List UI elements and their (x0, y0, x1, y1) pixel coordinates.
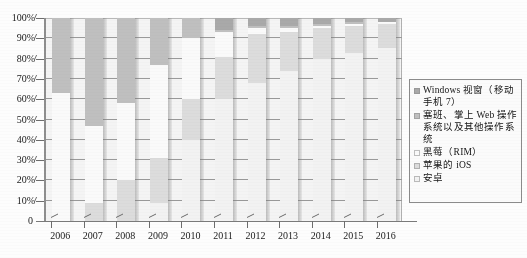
y-axis-tick-mark (36, 79, 44, 80)
bar-segment (117, 103, 135, 180)
bar-segment (378, 22, 396, 24)
stacked-bar (52, 18, 70, 221)
bar-segment (150, 18, 168, 65)
bar-segment (85, 18, 103, 126)
bar-segment (85, 126, 103, 203)
bar-group (52, 18, 70, 221)
bar-segment (215, 57, 233, 100)
bar-group (378, 18, 396, 221)
x-axis-tick-mark (377, 221, 378, 228)
bar-segment (313, 28, 331, 58)
bar-segment (215, 30, 233, 32)
bar-segment (280, 28, 298, 32)
bar-segment (248, 34, 266, 83)
plot-area (44, 18, 402, 221)
bar-side-face (233, 18, 237, 221)
stacked-bar (85, 18, 103, 221)
stacked-bar (345, 18, 363, 221)
x-axis-tick-label: 2015 (336, 230, 370, 241)
legend-swatch-icon (414, 176, 420, 182)
stacked-bar (182, 18, 200, 221)
y-axis-tick-mark (36, 38, 44, 39)
bar-group (150, 18, 168, 221)
legend-item[interactable]: Windows 视窗（移动手机 7） (413, 84, 518, 108)
x-axis-tick-label: 2008 (108, 230, 142, 241)
bar-segment (345, 26, 363, 52)
legend-item-label: 塞班、掌上 Web 操作系统以及其他操作系统 (423, 109, 518, 145)
bar-segment (345, 53, 363, 221)
x-axis-tick-mark (181, 221, 182, 228)
bar-segment (248, 83, 266, 221)
y-axis-tick-label: 70% (17, 74, 35, 84)
y-axis-tick-mark (36, 120, 44, 121)
x-axis-tick-label: 2009 (141, 230, 175, 241)
x-axis-tick-label: 2006 (43, 230, 77, 241)
bar-segment (378, 18, 396, 22)
bar-group (182, 18, 200, 221)
y-axis-tick-mark (36, 18, 44, 19)
y-axis-tick-label: 100% (12, 13, 35, 23)
legend-item[interactable]: 安卓 (413, 172, 518, 184)
chart-figure: 100%90%80%70%60%50%40%30%20%10% 0 200620… (0, 0, 527, 258)
bar-segment (117, 18, 135, 103)
stacked-bar (215, 18, 233, 221)
bar-side-face (266, 18, 270, 221)
x-axis-tick-mark (149, 221, 150, 228)
x-axis-tick-label: 2011 (206, 230, 240, 241)
y-axis-tick-label: 50% (17, 115, 35, 125)
bar-side-face (200, 18, 204, 221)
stacked-bar (280, 18, 298, 221)
x-axis-tick-label: 2010 (173, 230, 207, 241)
bar-segment (248, 28, 266, 34)
x-axis-tick-mark (84, 221, 85, 228)
x-axis-tick-label: 2012 (239, 230, 273, 241)
bar-segment (150, 65, 168, 158)
bar-segment (182, 140, 200, 221)
bar-segment (215, 99, 233, 221)
bar-segment (345, 22, 363, 24)
legend-item[interactable]: 苹果的 iOS (413, 159, 518, 171)
legend-swatch-icon (414, 150, 420, 156)
bar-segment (378, 24, 396, 48)
y-axis-tick-label: 10% (17, 196, 35, 206)
stacked-bar (248, 18, 266, 221)
bar-side-face (331, 18, 335, 221)
bar-group (117, 18, 135, 221)
bar-segment (313, 24, 331, 26)
x-axis-tick-label: 2016 (369, 230, 403, 241)
bar-side-face (396, 18, 400, 221)
y-axis-tick-mark (36, 180, 44, 181)
bar-segment (248, 26, 266, 28)
bar-group (248, 18, 266, 221)
legend-item-label: 黑莓（RIM） (423, 146, 482, 158)
x-axis: 2006200720082009201020112012201320142015… (44, 221, 416, 251)
legend-item-label: 苹果的 iOS (423, 159, 472, 171)
bar-side-face (363, 18, 367, 221)
y-axis-tick-label: 60% (17, 94, 35, 104)
bar-segment (280, 26, 298, 28)
bar-segment (280, 32, 298, 71)
bar-side-face (168, 18, 172, 221)
bar-segment (85, 203, 103, 221)
bar-segment (215, 32, 233, 56)
legend-item-label: Windows 视窗（移动手机 7） (423, 84, 518, 108)
plot-inner (46, 18, 402, 221)
x-axis-tick-mark (279, 221, 280, 228)
bar-segment (313, 18, 331, 24)
legend-item[interactable]: 黑莓（RIM） (413, 146, 518, 158)
bar-side-face (103, 18, 107, 221)
x-axis-tick-mark (116, 221, 117, 228)
y-axis: 100%90%80%70%60%50%40%30%20%10% (0, 0, 44, 225)
bar-segment (248, 18, 266, 26)
y-axis-tick-mark (36, 201, 44, 202)
bar-segment (378, 48, 396, 221)
legend-swatch-icon (414, 163, 420, 169)
bar-group (215, 18, 233, 221)
bar-segment (150, 158, 168, 203)
x-axis-tick-mark (51, 221, 52, 228)
legend-item[interactable]: 塞班、掌上 Web 操作系统以及其他操作系统 (413, 109, 518, 145)
y-axis-tick-label: 20% (17, 175, 35, 185)
legend-swatch-icon (414, 113, 420, 119)
x-axis-tick-label: 2007 (76, 230, 110, 241)
legend-item-label: 安卓 (423, 172, 443, 184)
